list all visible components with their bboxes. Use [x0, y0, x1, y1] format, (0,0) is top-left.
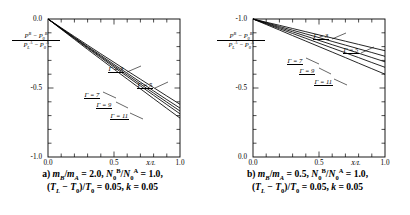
figure-container: PB − P0B PLA − P0A 0.0 -0.5 -1.0 0.0 0.5… — [0, 0, 410, 215]
curves-b — [253, 19, 385, 74]
y-ticks-b — [253, 33, 385, 143]
y-axis-label-denominator-a: PLA − P0A — [12, 41, 60, 48]
y-tick-0: 0.0 — [8, 15, 42, 23]
curve-label-gamma-7-a: Γ = 7 — [84, 91, 100, 99]
curve-gamma-3 — [48, 19, 180, 104]
y-tick-0: -1.0 — [213, 15, 247, 23]
y-tick-1: -0.5 — [8, 84, 42, 92]
panel-b: PB − P0B PLA − P0A -1.0 -0.5 0.0 0.0 0.5… — [205, 0, 410, 215]
panel-a: PB − P0B PLA − P0A 0.0 -0.5 -1.0 0.0 0.5… — [0, 0, 205, 215]
y-axis-label-denominator-b: PLA − P0A — [217, 41, 265, 48]
curve-gamma-7 — [253, 19, 385, 62]
caption-a-line1: a) mB/mA = 2.0, N0B/N0A = 1.0, — [0, 168, 205, 181]
y-axis-label-a: PB − P0B PLA − P0A — [12, 33, 60, 49]
curve-label-gamma-11-a: Γ = 11 — [110, 112, 129, 120]
curve-label-gamma-9-a: Γ = 9 — [96, 101, 112, 109]
curve-gamma-9 — [253, 19, 385, 67]
curve-label-gamma-5-a: Γ = 5 — [137, 81, 153, 89]
x-tick-0: 0.0 — [240, 159, 266, 167]
caption-b: b) mB/mA = 0.5, N0B/N0A = 1.0, (TL − T0)… — [205, 168, 410, 194]
y-axis-label-b: PB − P0B PLA − P0A — [217, 33, 265, 49]
x-axis-label-b: X/L — [351, 159, 361, 166]
curve-label-gamma-9-b: Γ = 9 — [299, 67, 315, 75]
x-axis-label-a: X/L — [146, 159, 156, 166]
curve-gamma-5 — [48, 19, 180, 108]
caption-a: a) mB/mA = 2.0, N0B/N0A = 1.0, (TL − T0)… — [0, 168, 205, 194]
x-tick-1: 0.5 — [306, 159, 332, 167]
curve-label-gamma-5-b: Γ = 5 — [343, 46, 359, 54]
y-tick-1: -0.5 — [213, 84, 247, 92]
x-tick-2: 1.0 — [372, 159, 398, 167]
x-tick-2: 1.0 — [167, 159, 193, 167]
curve-label-gamma-7-b: Γ = 7 — [287, 57, 303, 65]
y-ticks-a — [48, 33, 180, 143]
caption-a-line2: (TL − T0)/T0 = 0.05, k = 0.05 — [0, 181, 205, 194]
curve-label-gamma-3-b: Γ = 3 — [313, 32, 329, 40]
curve-gamma-11 — [253, 19, 385, 74]
x-tick-0: 0.0 — [35, 159, 61, 167]
plot-frame-a — [48, 19, 180, 157]
curve-label-gamma-11-b: Γ = 11 — [314, 78, 333, 86]
caption-b-line2: (TL − T0)/T0 = 0.05, k = 0.05 — [205, 181, 410, 194]
curve-label-gamma-3-a: Γ = 3 — [108, 65, 124, 73]
x-tick-1: 0.5 — [101, 159, 127, 167]
caption-b-line1: b) mB/mA = 0.5, N0B/N0A = 1.0, — [205, 168, 410, 181]
